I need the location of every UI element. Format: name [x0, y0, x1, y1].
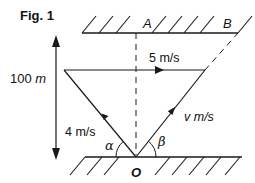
bottom-bank-hatching	[70, 157, 240, 175]
resultant-velocity-label: v m/s	[184, 110, 214, 124]
angle-alpha-label: α	[105, 138, 114, 153]
width-arrow-down-icon	[52, 148, 60, 160]
angle-alpha-arc	[116, 142, 123, 157]
resultant-velocity-arrow-icon	[168, 107, 175, 115]
width-label: 100 m	[10, 71, 46, 86]
dashed-line-to-B	[205, 33, 238, 70]
figure-title: Fig. 1	[20, 8, 54, 23]
river-velocity-label: 5 m/s	[149, 51, 180, 65]
boat-velocity-left-label: 4 m/s	[65, 125, 96, 139]
angle-beta-arc	[148, 141, 156, 157]
width-value: 100	[10, 71, 32, 86]
width-arrow-up-icon	[52, 35, 60, 47]
angle-beta-label: β	[157, 134, 166, 149]
boat-velocity-left-line	[64, 70, 136, 157]
bottom-bank	[70, 157, 242, 175]
river-velocity-arrow-icon	[155, 66, 164, 74]
river-crossing-diagram: Fig. 1 100 m A B O 5 m/s 4 m/s v m/s α β	[0, 0, 255, 183]
point-B-label: B	[223, 16, 232, 31]
width-unit: m	[35, 71, 46, 86]
point-A-label: A	[142, 16, 152, 31]
point-O-label: O	[131, 165, 141, 180]
